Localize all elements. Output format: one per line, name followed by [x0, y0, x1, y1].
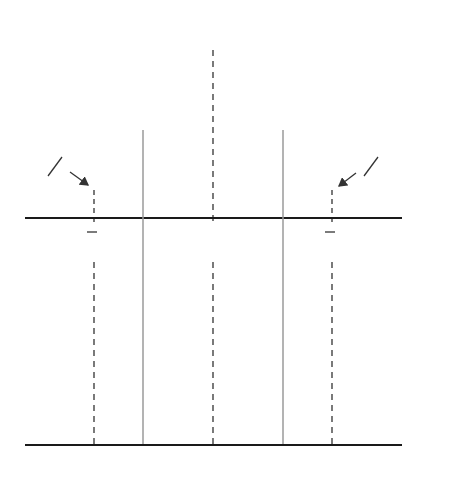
x1-bar-label — [0, 0, 97, 232]
alpha-half-left-label — [48, 157, 88, 185]
right-tail-arrow — [339, 173, 356, 186]
top-panel — [0, 0, 402, 232]
alpha-half-right-label — [339, 157, 378, 186]
x3-bar-label — [0, 0, 335, 232]
bottom-panel — [0, 0, 402, 445]
hypothesis-test-diagram — [0, 0, 454, 501]
left-tail-arrow — [70, 172, 88, 185]
